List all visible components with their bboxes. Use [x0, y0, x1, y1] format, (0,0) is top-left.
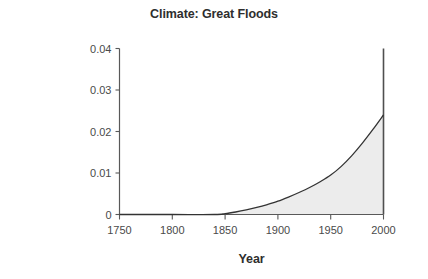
chart-figure: Climate: Great Floods Decadal Flood Freq…: [0, 0, 428, 279]
x-tick-label: 2000: [371, 224, 395, 236]
y-tick-label: 0.04: [90, 43, 111, 55]
x-tick-label: 1750: [107, 224, 131, 236]
x-tick-label: 1850: [213, 224, 237, 236]
y-tick-label: 0.01: [90, 167, 111, 179]
y-tick-label: 0: [105, 209, 111, 221]
x-tick-label: 1800: [160, 224, 184, 236]
y-tick-label: 0.03: [90, 84, 111, 96]
x-tick-label: 1950: [318, 224, 342, 236]
y-tick-label: 0.02: [90, 126, 111, 138]
x-tick-label: 1900: [266, 224, 290, 236]
plot-area: 00.010.020.030.0417501800185019001950200…: [0, 0, 428, 279]
